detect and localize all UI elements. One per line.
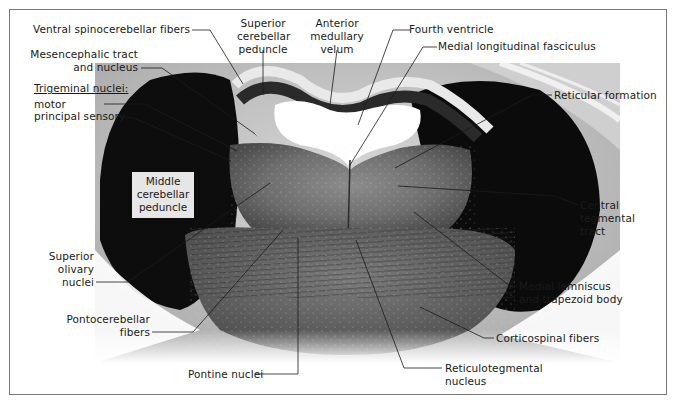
label-line: cerebellar (237, 30, 289, 43)
label-central-tegmental-tract: Central tegmental tract (580, 199, 635, 238)
label-pontine-nuclei: Pontine nuclei (188, 368, 263, 381)
label-reticular-formation: Reticular formation (554, 89, 657, 102)
label-line: Medial lemniscus (519, 280, 623, 293)
label-line: Superior (30, 250, 94, 263)
label-line: nucleus (445, 375, 543, 388)
label-mesencephalic-tract-and-nucleus: Mesencephalic tract and nucleus (30, 48, 138, 74)
label-reticulotegmental-nucleus: Reticulotegmental nucleus (445, 362, 543, 388)
label-line: Pontocerebellar (60, 313, 150, 326)
label-line: nuclei (30, 276, 94, 289)
label-line: peduncle (132, 201, 194, 214)
label-line: cerebellar (132, 188, 194, 201)
label-line: Mesencephalic tract (30, 48, 138, 61)
label-line: medullary (307, 30, 367, 43)
label-trigeminal-nuclei-heading: Trigeminal nuclei: (34, 82, 128, 95)
label-ventral-spinocerebellar-fibers: Ventral spinocerebellar fibers (33, 23, 190, 36)
label-superior-cerebellar-peduncle: Superior cerebellar peduncle (237, 17, 289, 56)
label-trigeminal-principal-sensory: principal sensory (34, 110, 125, 123)
label-anterior-medullary-velum: Anterior medullary velum (307, 17, 367, 56)
label-line: tegmental (580, 212, 635, 225)
label-line: fibers (60, 326, 150, 339)
label-line: olivary (30, 263, 94, 276)
label-fourth-ventricle: Fourth ventricle (409, 23, 494, 36)
label-superior-olivary-nuclei: Superior olivary nuclei (30, 250, 94, 289)
label-line: peduncle (237, 43, 289, 56)
label-line: velum (307, 43, 367, 56)
label-medial-lemniscus-and-trapezoid-body: Medial lemniscus and trapezoid body (519, 280, 623, 306)
label-line: Superior (237, 17, 289, 30)
label-line: tract (580, 225, 635, 238)
label-line: Central (580, 199, 635, 212)
label-pontocerebellar-fibers: Pontocerebellar fibers (60, 313, 150, 339)
label-middle-cerebellar-peduncle: Middle cerebellar peduncle (132, 172, 194, 218)
label-line: Reticulotegmental (445, 362, 543, 375)
label-line: and nucleus (30, 61, 138, 74)
label-line: Anterior (307, 17, 367, 30)
label-corticospinal-fibers: Corticospinal fibers (496, 332, 599, 345)
label-line: Middle (132, 175, 194, 188)
label-medial-longitudinal-fasciculus: Medial longitudinal fasciculus (438, 40, 596, 53)
label-line: and trapezoid body (519, 293, 623, 306)
